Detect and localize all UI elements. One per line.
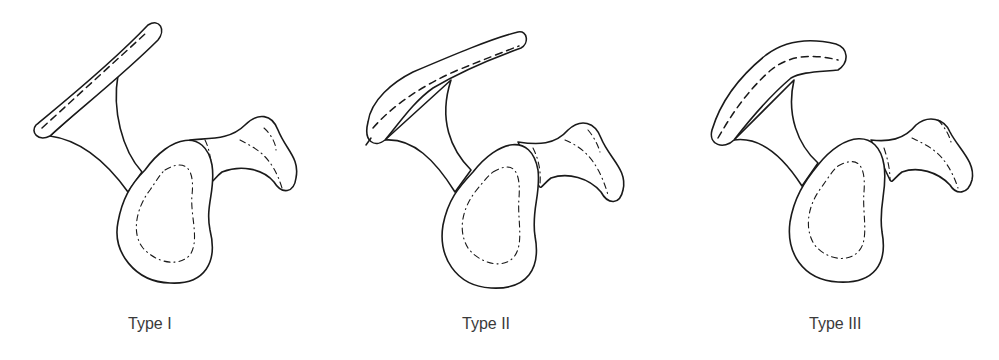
type-3-label: Type III [809, 315, 861, 333]
panel-type-1: Type I [0, 0, 333, 360]
scapula-curved-acromion-drawing [333, 0, 666, 360]
type-2-label: Type II [462, 315, 510, 333]
panel-type-3: Type III [666, 0, 999, 360]
panel-type-2: Type II [333, 0, 666, 360]
type-1-label: Type I [128, 315, 172, 333]
scapula-hooked-acromion-drawing [666, 0, 999, 360]
scapula-flat-acromion-drawing [0, 0, 333, 360]
